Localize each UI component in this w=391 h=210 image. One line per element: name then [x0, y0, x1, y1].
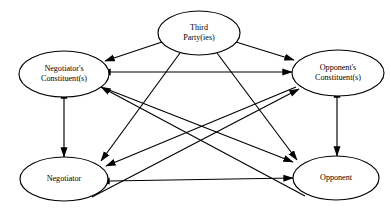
node-label-opponent: Opponent: [320, 173, 353, 182]
nodes-layer: ThirdParty(ies)Negotiator'sConstituent(s…: [19, 11, 384, 201]
node-label-third-party: Third: [190, 23, 208, 32]
edge-third-party-to-negotiator: [101, 53, 180, 161]
node-third-party[interactable]: ThirdParty(ies): [158, 11, 240, 55]
edge-third-party-to-opponents-constituents: [236, 42, 294, 60]
edge-negotiators-constituents-to-opponent: [104, 88, 293, 162]
node-label-opponents-constituents: Opponent's: [320, 63, 357, 72]
node-opponents-constituents[interactable]: Opponent'sConstituent(s): [292, 50, 384, 96]
relationship-diagram: ThirdParty(ies)Negotiator'sConstituent(s…: [0, 0, 391, 210]
node-label-opponents-constituents: Constituent(s): [315, 73, 361, 82]
node-label-third-party: Party(ies): [183, 33, 215, 42]
edge-opponents-constituents-to-negotiator: [106, 87, 296, 166]
edge-third-party-to-opponent: [217, 53, 297, 160]
node-label-negotiators-constituents: Negotiator's: [44, 64, 83, 73]
node-opponent[interactable]: Opponent: [293, 156, 379, 200]
node-negotiator[interactable]: Negotiator: [20, 157, 108, 201]
diagram-canvas: ThirdParty(ies)Negotiator'sConstituent(s…: [0, 0, 391, 210]
node-label-negotiators-constituents: Constituent(s): [41, 74, 87, 83]
edge-negotiator-opponent-horizontal: [109, 178, 293, 181]
edge-negotiator-to-opponents-constituents: [92, 89, 299, 197]
node-negotiators-constituents[interactable]: Negotiator'sConstituent(s): [19, 51, 109, 97]
edge-third-party-to-negotiators-constituents: [105, 42, 162, 61]
node-label-negotiator: Negotiator: [47, 174, 82, 183]
